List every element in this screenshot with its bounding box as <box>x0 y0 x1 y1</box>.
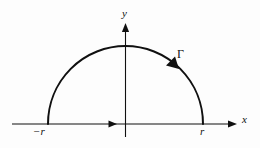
tick-label-negative-r: −r <box>33 126 45 137</box>
y-axis-arrowhead-icon <box>122 23 129 32</box>
tick-label-positive-r: r <box>200 126 204 137</box>
figure-root: y x −r r Γ <box>0 0 260 148</box>
x-axis-label: x <box>242 114 247 125</box>
y-axis-label: y <box>122 8 127 19</box>
x-axis-direction-arrowhead-icon <box>109 121 118 128</box>
contour-label-gamma: Γ <box>177 48 184 60</box>
x-axis-arrowhead-icon <box>228 120 237 127</box>
